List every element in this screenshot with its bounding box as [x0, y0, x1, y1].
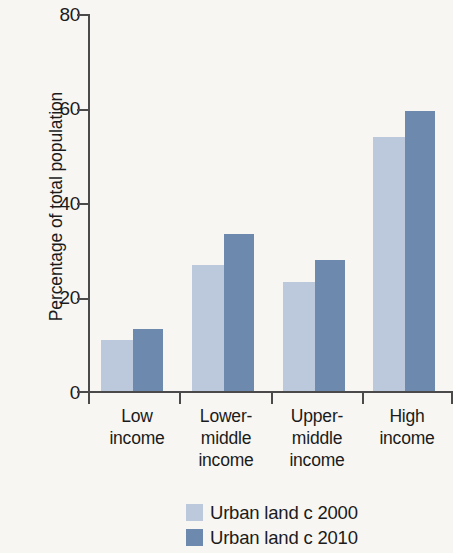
- legend-item-2010[interactable]: Urban land c 2010: [186, 525, 358, 550]
- y-tick-label-0: 0: [14, 383, 80, 402]
- y-axis-tick-40: [77, 203, 88, 205]
- x-axis-tick-3: [362, 391, 364, 404]
- bar-high-income-2000[interactable]: [373, 137, 405, 391]
- legend-swatch-icon-2000: [186, 504, 203, 521]
- x-axis-tick-2: [271, 391, 273, 404]
- y-tick-label-20: 20: [14, 288, 80, 307]
- x-category-label-lower-middle-income: Lower- middle income: [180, 405, 272, 471]
- y-axis-tick-60: [77, 109, 88, 111]
- bar-low-income-2000[interactable]: [101, 340, 133, 391]
- chart-root: Percentage of total population 80 60 40 …: [0, 0, 453, 553]
- x-axis-tick-0: [88, 391, 90, 404]
- y-tick-label-60: 60: [14, 99, 80, 118]
- x-category-label-low-income: Low income: [92, 405, 182, 449]
- y-tick-label-80: 80: [14, 5, 80, 24]
- bar-low-income-2010[interactable]: [133, 329, 163, 391]
- legend: Urban land c 2000 Urban land c 2010: [186, 500, 358, 550]
- x-category-label-high-income: High income: [362, 405, 452, 449]
- legend-label-2010: Urban land c 2010: [210, 528, 358, 547]
- y-axis-tick-80: [77, 14, 88, 16]
- bar-upper-middle-income-2000[interactable]: [283, 282, 315, 391]
- y-axis-tick-20: [77, 298, 88, 300]
- x-category-label-upper-middle-income: Upper- middle income: [271, 405, 363, 471]
- bar-high-income-2010[interactable]: [405, 111, 435, 391]
- legend-swatch-icon-2010: [186, 529, 203, 546]
- y-axis-tick-0: [77, 391, 88, 393]
- plot-area: [88, 14, 453, 393]
- y-tick-label-40: 40: [14, 194, 80, 213]
- legend-label-2000: Urban land c 2000: [210, 503, 358, 522]
- bar-upper-middle-income-2010[interactable]: [315, 260, 345, 391]
- legend-item-2000[interactable]: Urban land c 2000: [186, 500, 358, 525]
- bar-lower-middle-income-2000[interactable]: [192, 265, 224, 391]
- bar-lower-middle-income-2010[interactable]: [224, 234, 254, 391]
- y-axis-line: [88, 14, 90, 393]
- x-axis-tick-1: [179, 391, 181, 404]
